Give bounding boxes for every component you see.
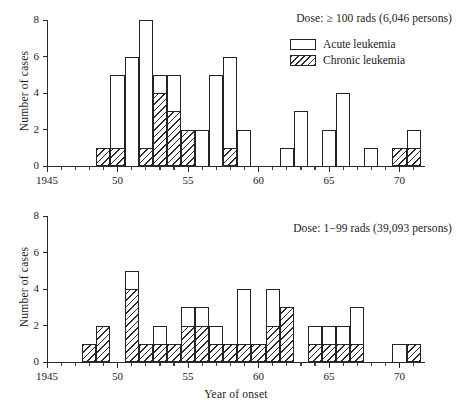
bar-segment-chronic [407, 344, 421, 362]
bar-segment-acute [181, 307, 195, 327]
dose-annotation: Dose: 1−99 rads (39,093 persons) [293, 222, 452, 234]
bar-1962 [280, 148, 294, 166]
bar-1971 [407, 130, 421, 167]
bar-segment-chronic [195, 326, 209, 363]
bar-1956 [195, 307, 209, 362]
x-tick-minor [145, 167, 146, 170]
x-tick-minor [371, 167, 372, 170]
x-tick [47, 363, 48, 368]
x-tick-label: 70 [378, 175, 422, 186]
bar-segment-acute [392, 344, 406, 364]
x-tick-minor [314, 167, 315, 170]
bar-segment-chronic [125, 289, 139, 362]
y-tick-label: 8 [19, 14, 39, 25]
x-tick-minor [357, 363, 358, 366]
x-tick [329, 363, 330, 368]
x-tick-minor [230, 167, 231, 170]
x-tick-minor [314, 363, 315, 366]
x-tick-minor [216, 363, 217, 366]
y-tick [43, 129, 48, 130]
bar-segment-acute [209, 75, 223, 168]
x-tick-minor [89, 363, 90, 366]
x-tick-minor [357, 167, 358, 170]
x-tick-minor [159, 363, 160, 366]
bar-segment-acute [294, 111, 308, 167]
x-tick-minor [272, 167, 273, 170]
y-tick [43, 93, 48, 94]
bar-1953 [153, 75, 167, 166]
x-tick-label: 65 [307, 371, 351, 382]
bar-1957 [209, 75, 223, 166]
bar-segment-chronic [96, 326, 110, 363]
x-tick-minor [89, 167, 90, 170]
x-tick-minor [131, 167, 132, 170]
legend-label: Acute leukemia [323, 38, 395, 51]
bar-1968 [364, 148, 378, 166]
bar-segment-chronic [153, 344, 167, 362]
y-tick-label: 0 [19, 356, 39, 367]
x-tick-minor [75, 363, 76, 366]
x-tick-minor [202, 167, 203, 170]
bar-segment-chronic [251, 344, 265, 362]
x-tick-minor [286, 363, 287, 366]
bar-1970 [392, 148, 406, 166]
bar-1951 [125, 57, 139, 167]
bar-segment-acute [209, 326, 223, 346]
bar-1959 [237, 289, 251, 362]
x-tick-label: 50 [96, 371, 140, 382]
x-tick-minor [159, 167, 160, 170]
y-tick [43, 216, 48, 217]
x-tick-minor [272, 363, 273, 366]
bar-1960 [251, 344, 265, 362]
bar-segment-acute [153, 75, 167, 95]
bar-1965 [322, 326, 336, 363]
bar-segment-acute [125, 57, 139, 168]
bar-segment-acute [266, 289, 280, 327]
bar-segment-chronic [181, 130, 195, 167]
x-tick-minor [343, 167, 344, 170]
bar-1949 [96, 148, 110, 166]
x-tick-label: 60 [237, 175, 281, 186]
bar-1961 [266, 289, 280, 362]
dose-annotation: Dose: ≥ 100 rads (6,046 persons) [296, 12, 452, 24]
bar-segment-chronic [153, 93, 167, 166]
bar-segment-chronic [280, 307, 294, 362]
bar-1965 [322, 130, 336, 167]
x-tick [329, 167, 330, 172]
bar-1966 [336, 326, 350, 363]
bar-segment-chronic [407, 148, 421, 166]
x-tick-label: 70 [378, 371, 422, 382]
x-tick-minor [103, 167, 104, 170]
x-tick-minor [202, 363, 203, 366]
hatched-swatch-icon [290, 55, 316, 66]
x-tick [258, 167, 259, 172]
y-tick [43, 252, 48, 253]
bar-segment-chronic [392, 148, 406, 166]
y-tick-label: 0 [19, 160, 39, 171]
bar-segment-chronic [209, 344, 223, 362]
x-tick [117, 167, 118, 172]
y-tick [43, 56, 48, 57]
x-tick-label: 1945 [25, 371, 69, 382]
y-tick [43, 289, 48, 290]
bar-1970 [392, 344, 406, 362]
bar-segment-acute [167, 75, 181, 113]
bar-1950 [110, 75, 124, 166]
bar-segment-acute [153, 326, 167, 346]
bar-segment-chronic [266, 326, 280, 363]
bar-segment-chronic [139, 148, 153, 166]
x-tick-minor [244, 167, 245, 170]
bar-segment-acute [280, 148, 294, 168]
bar-segment-chronic [96, 148, 110, 166]
bar-1954 [167, 75, 181, 166]
x-tick-label: 55 [166, 175, 210, 186]
x-tick-minor [286, 167, 287, 170]
bar-1951 [125, 271, 139, 362]
x-tick-minor [61, 363, 62, 366]
bar-segment-chronic [322, 344, 336, 362]
x-tick-minor [103, 363, 104, 366]
legend-label: Chronic leukemia [323, 54, 405, 67]
panel-dose-low: 0246819455055606570Number of casesDose: … [0, 196, 460, 395]
bar-segment-acute [125, 271, 139, 291]
plot-area-bottom: 0246819455055606570Number of casesDose: … [0, 196, 460, 395]
